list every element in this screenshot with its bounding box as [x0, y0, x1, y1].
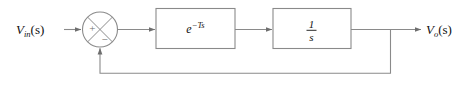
output-label: Vo(s): [426, 22, 452, 39]
delay-block[interactable]: e−Ts: [156, 9, 235, 49]
output-label-text: Vo(s): [426, 22, 452, 39]
input-label-subscript: in: [24, 29, 31, 39]
summing-junction-plus-sign: +: [89, 22, 95, 34]
integrator-block-denominator: s: [309, 31, 313, 43]
summing-junction[interactable]: + −: [83, 12, 118, 47]
integrator-block[interactable]: 1 s: [273, 9, 351, 49]
summing-junction-minus-sign: −: [101, 33, 107, 45]
block-diagram-svg: + − e−Ts 1 s: [0, 0, 472, 86]
output-label-suffix: (s): [438, 22, 452, 37]
input-label-suffix: (s): [31, 22, 45, 37]
block-diagram-canvas: + − e−Ts 1 s: [0, 0, 472, 86]
input-label: Vin(s): [16, 22, 44, 39]
input-label-text: Vin(s): [16, 22, 44, 39]
integrator-block-numerator: 1: [309, 18, 315, 30]
